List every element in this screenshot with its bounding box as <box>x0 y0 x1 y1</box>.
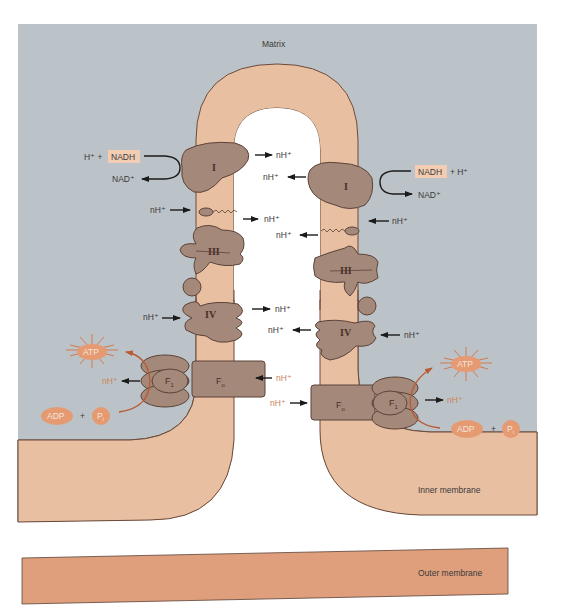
fo-right <box>311 385 375 420</box>
proton-out-q-right: nH⁺ <box>276 230 292 240</box>
complex-iv-right-label: IV <box>340 327 352 338</box>
proton-out-q-left: nH⁺ <box>264 214 280 224</box>
proton-out-i-left: nH⁺ <box>276 150 292 160</box>
complex-i-left-label: I <box>212 162 216 173</box>
complex-i-right-label: I <box>344 181 348 192</box>
proton-in-q-right: nH⁺ <box>392 216 408 226</box>
nadh-right: NADH <box>418 167 442 177</box>
proton-out-f1-left: nH⁺ <box>102 376 118 386</box>
proton-in-iv-left: nH⁺ <box>143 312 159 322</box>
adp-left-label: ADP <box>47 411 65 421</box>
h-plus-suffix-right: + H⁺ <box>450 167 468 177</box>
complex-iv-left-label: IV <box>205 309 217 320</box>
plus-right: + <box>491 424 496 434</box>
nadh-left: NADH <box>111 152 135 162</box>
adp-right-label: ADP <box>457 424 475 434</box>
complex-iii-left-label: III <box>208 246 220 257</box>
coenzyme-q-right <box>345 227 359 235</box>
mitochondrial-etc-diagram: Matrix Inner membrane Outer membrane I H… <box>0 0 562 609</box>
proton-out-iv-right: nH⁺ <box>268 325 284 335</box>
h-plus-prefix-left: H⁺ + <box>84 152 103 162</box>
proton-in-iv-right: nH⁺ <box>404 330 420 340</box>
complex-iii-right-label: III <box>340 265 352 276</box>
proton-in-q-left: nH⁺ <box>150 205 166 215</box>
nad-plus-left: NAD⁺ <box>112 174 135 184</box>
cytochrome-c-left <box>183 278 201 296</box>
proton-to-fo-left: nH⁺ <box>276 373 292 383</box>
fo-left <box>192 361 265 397</box>
proton-out-iv-left: nH⁺ <box>275 304 291 314</box>
atp-left-label: ATP <box>83 347 99 357</box>
proton-out-f1-right: nH⁺ <box>447 395 463 405</box>
inner-membrane-label: Inner membrane <box>418 485 481 495</box>
outer-membrane-label: Outer membrane <box>418 568 483 578</box>
coenzyme-q-left <box>199 208 213 216</box>
f1-right <box>372 377 418 429</box>
proton-to-fo-right: nH⁺ <box>270 398 286 408</box>
matrix-label: Matrix <box>262 39 286 49</box>
plus-left: + <box>80 411 85 421</box>
nad-plus-right: NAD⁺ <box>418 190 441 200</box>
atp-right-label: ATP <box>457 359 473 369</box>
cytochrome-c-right <box>358 297 376 315</box>
proton-in-i-right: nH⁺ <box>263 172 279 182</box>
